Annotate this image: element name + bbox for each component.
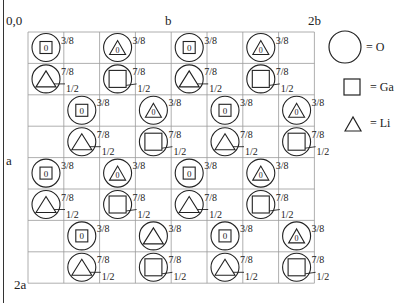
zero-height-label: 0 xyxy=(116,171,120,180)
legend-label-o: = O xyxy=(366,40,384,55)
half-height-label: 1/2 xyxy=(281,83,294,94)
zero-height-label: 0 xyxy=(187,169,192,179)
zero-height-label: 0 xyxy=(80,231,85,241)
oxygen-circle-icon xyxy=(283,253,311,281)
z-height-label: 7/8 xyxy=(61,66,74,77)
zero-height-label: 0 xyxy=(187,43,192,53)
z-height-label: 3/8 xyxy=(240,223,253,234)
z-height-label: 7/8 xyxy=(240,129,253,140)
z-height-label: 3/8 xyxy=(204,35,217,46)
zero-height-label: 0 xyxy=(223,106,228,116)
oxygen-circle-icon xyxy=(104,191,132,219)
half-height-label: 1/2 xyxy=(281,209,294,220)
z-height-label: 3/8 xyxy=(204,160,217,171)
z-height-label: 7/8 xyxy=(168,129,181,140)
half-height-label: 1/2 xyxy=(66,209,79,220)
zero-height-label: 0 xyxy=(295,234,299,243)
legend-label-li: = Li xyxy=(370,116,390,131)
z-height-label: 3/8 xyxy=(61,35,74,46)
oxygen-circle-icon xyxy=(68,128,96,156)
z-height-label: 7/8 xyxy=(276,66,289,77)
zero-height-label: 0 xyxy=(44,43,49,53)
half-height-label: 1/2 xyxy=(173,271,186,282)
zero-height-label: 0 xyxy=(116,46,120,55)
oxygen-circle-icon xyxy=(247,191,275,219)
zero-height-label: 0 xyxy=(80,106,85,116)
z-height-label: 7/8 xyxy=(240,254,253,265)
z-height-label: 7/8 xyxy=(204,192,217,203)
oxygen-circle-icon xyxy=(283,128,311,156)
oxygen-circle-icon xyxy=(32,191,60,219)
z-height-label: 7/8 xyxy=(133,66,146,77)
z-height-label: 7/8 xyxy=(168,254,181,265)
half-height-label: 1/2 xyxy=(209,83,222,94)
oxygen-circle-icon xyxy=(139,128,167,156)
oxygen-circle-icon xyxy=(175,191,203,219)
z-height-label: 7/8 xyxy=(276,192,289,203)
half-height-label: 1/2 xyxy=(317,271,330,282)
oxygen-circle-icon xyxy=(68,253,96,281)
z-height-label: 3/8 xyxy=(97,223,110,234)
oxygen-circle-icon xyxy=(175,65,203,93)
z-height-label: 3/8 xyxy=(168,223,181,234)
z-height-label: 3/8 xyxy=(133,160,146,171)
half-height-label: 1/2 xyxy=(66,83,79,94)
half-height-label: 1/2 xyxy=(138,209,151,220)
oxygen-circle-icon xyxy=(211,128,239,156)
half-height-label: 1/2 xyxy=(245,146,258,157)
oxygen-circle-icon xyxy=(211,253,239,281)
zero-height-label: 0 xyxy=(223,231,228,241)
half-height-label: 1/2 xyxy=(102,271,115,282)
zero-height-label: 0 xyxy=(44,169,49,179)
half-height-label: 1/2 xyxy=(173,146,186,157)
zero-height-label: 0 xyxy=(259,46,263,55)
z-height-label: 7/8 xyxy=(312,254,325,265)
z-height-label: 3/8 xyxy=(276,160,289,171)
z-height-label: 3/8 xyxy=(240,97,253,108)
z-height-label: 7/8 xyxy=(312,129,325,140)
half-height-label: 1/2 xyxy=(245,271,258,282)
half-height-label: 1/2 xyxy=(138,83,151,94)
z-height-label: 7/8 xyxy=(97,129,110,140)
z-height-label: 7/8 xyxy=(97,254,110,265)
zero-height-label: 0 xyxy=(151,108,155,117)
z-height-label: 3/8 xyxy=(168,97,181,108)
crystal-structure-diagram: 03/803/803/803/87/81/27/81/27/81/27/81/2… xyxy=(0,0,406,303)
z-height-label: 7/8 xyxy=(61,192,74,203)
z-height-label: 3/8 xyxy=(312,223,325,234)
oxygen-circle-icon xyxy=(247,65,275,93)
z-height-label: 7/8 xyxy=(133,192,146,203)
half-height-label: 1/2 xyxy=(102,146,115,157)
z-height-label: 3/8 xyxy=(133,35,146,46)
z-height-label: 3/8 xyxy=(61,160,74,171)
z-height-label: 3/8 xyxy=(276,35,289,46)
z-height-label: 3/8 xyxy=(312,97,325,108)
legend-label-ga: = Ga xyxy=(370,80,394,95)
zero-height-label: 0 xyxy=(259,171,263,180)
oxygen-circle-icon xyxy=(139,253,167,281)
z-height-label: 3/8 xyxy=(97,97,110,108)
oxygen-circle-icon xyxy=(139,222,167,250)
oxygen-circle-icon xyxy=(32,65,60,93)
oxygen-circle-icon xyxy=(104,65,132,93)
half-height-label: 1/2 xyxy=(209,209,222,220)
z-height-label: 7/8 xyxy=(204,66,217,77)
zero-height-label: 0 xyxy=(295,108,299,117)
half-height-label: 1/2 xyxy=(317,146,330,157)
